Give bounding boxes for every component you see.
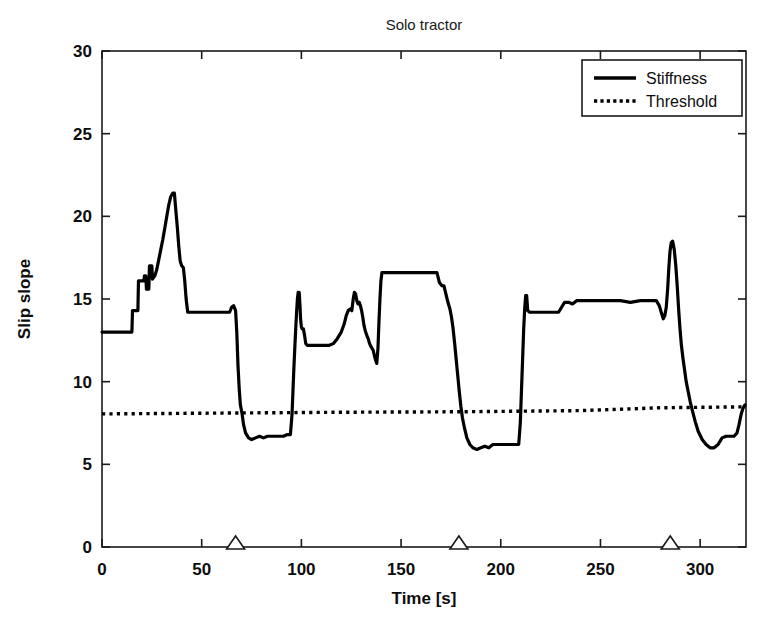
legend-label-stiffness: Stiffness <box>646 70 707 87</box>
x-tick-label: 50 <box>192 560 211 579</box>
x-tick-label: 150 <box>387 560 415 579</box>
y-tick-label: 10 <box>73 373 92 392</box>
x-axis-ticks: 050100150200250300 <box>97 51 714 579</box>
x-tick-label: 100 <box>287 560 315 579</box>
x-tick-label: 200 <box>487 560 515 579</box>
x-axis-label: Time [s] <box>392 589 457 608</box>
y-axis-label: Slip slope <box>15 259 34 339</box>
chart-legend: Stiffness Threshold <box>582 60 742 116</box>
chart-figure: Solo tractor 050100150200250300 05101520… <box>0 0 783 629</box>
y-tick-label: 20 <box>73 207 92 226</box>
x-tick-label: 250 <box>586 560 614 579</box>
plot-area-frame <box>102 51 746 547</box>
y-tick-label: 30 <box>73 42 92 61</box>
y-tick-label: 15 <box>73 290 92 309</box>
series-line-stiffness <box>102 193 745 449</box>
x-axis-event-marker <box>450 536 468 549</box>
x-axis-event-marker <box>227 536 245 549</box>
x-tick-label: 300 <box>686 560 714 579</box>
y-tick-label: 0 <box>83 538 92 557</box>
y-tick-label: 5 <box>83 455 92 474</box>
x-axis-event-marker <box>661 536 679 549</box>
legend-label-threshold: Threshold <box>646 93 717 110</box>
y-tick-label: 25 <box>73 125 92 144</box>
chart-title: Solo tractor <box>386 16 463 33</box>
chart-canvas: Solo tractor 050100150200250300 05101520… <box>0 0 783 629</box>
x-tick-label: 0 <box>97 560 106 579</box>
data-series-layer <box>102 193 746 449</box>
series-line-threshold <box>102 407 746 414</box>
